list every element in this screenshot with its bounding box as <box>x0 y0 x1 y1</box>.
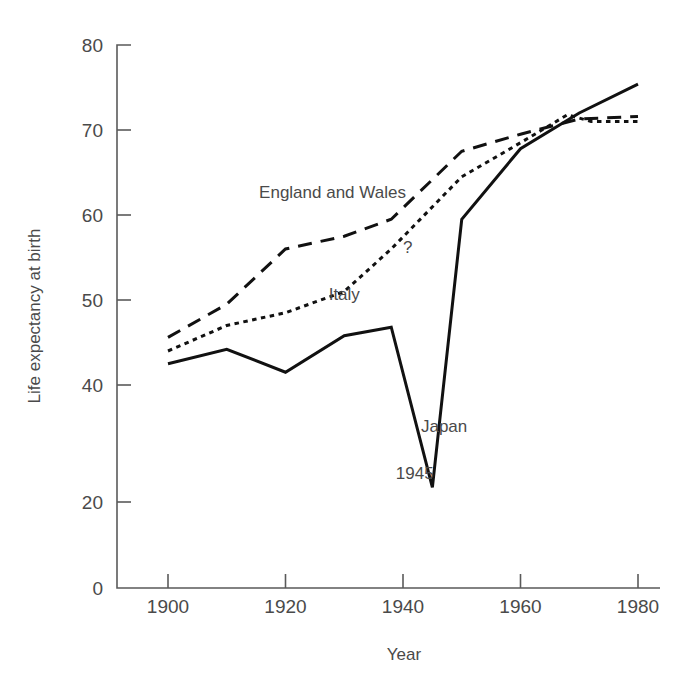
annotation-1945: 1945 <box>396 464 434 483</box>
y-tick-label: 20 <box>82 492 103 513</box>
y-tick-label: 50 <box>82 290 103 311</box>
annotation-england-and-wales: England and Wales <box>259 183 406 202</box>
y-tick-label: 0 <box>92 578 103 599</box>
y-axis-title: Life expectancy at birth <box>25 229 44 404</box>
axis-lines <box>117 45 660 588</box>
annotation-italy: Italy <box>329 285 361 304</box>
x-axis-tick-labels: 19001920194019601980 <box>147 596 659 617</box>
y-axis-tick-marks <box>117 130 131 502</box>
x-tick-label: 1900 <box>147 596 189 617</box>
x-tick-label: 1960 <box>499 596 541 617</box>
x-tick-label: 1940 <box>382 596 424 617</box>
y-tick-label: 40 <box>82 375 103 396</box>
y-tick-label: 80 <box>82 35 103 56</box>
life-expectancy-line-chart: 0204050607080 19001920194019601980 Year … <box>0 0 700 692</box>
axes-group <box>117 45 660 588</box>
chart-container: 0204050607080 19001920194019601980 Year … <box>0 0 700 692</box>
x-tick-label: 1980 <box>617 596 659 617</box>
data-series-group <box>168 84 638 487</box>
series-line-england-and-wales <box>168 116 638 337</box>
annotation-japan: Japan <box>421 417 467 436</box>
x-axis-tick-marks <box>168 574 638 588</box>
annotation--: ? <box>403 238 412 257</box>
y-axis-tick-labels: 0204050607080 <box>82 35 103 599</box>
x-axis-title: Year <box>387 645 422 664</box>
y-tick-label: 60 <box>82 205 103 226</box>
series-line-japan <box>168 84 638 487</box>
x-tick-label: 1920 <box>264 596 306 617</box>
y-tick-label: 70 <box>82 120 103 141</box>
series-line-italy <box>168 115 638 351</box>
